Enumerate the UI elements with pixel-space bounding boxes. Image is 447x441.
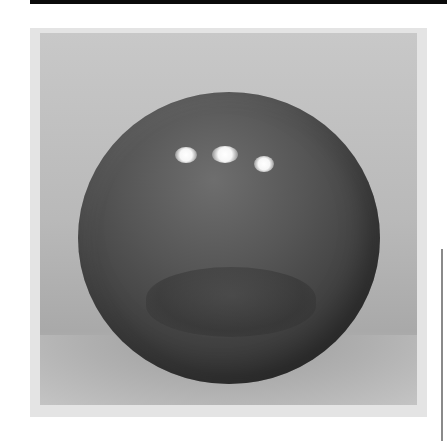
- sphere-reflection: [146, 267, 316, 337]
- photo-frame: [30, 28, 427, 417]
- specular-highlight: [212, 146, 238, 163]
- right-edge-line: [441, 249, 443, 441]
- sphere-photo: [40, 33, 417, 405]
- glossy-sphere: [78, 92, 380, 384]
- specular-highlight: [175, 147, 197, 163]
- specular-highlight: [254, 156, 274, 172]
- top-black-band: [30, 0, 447, 4]
